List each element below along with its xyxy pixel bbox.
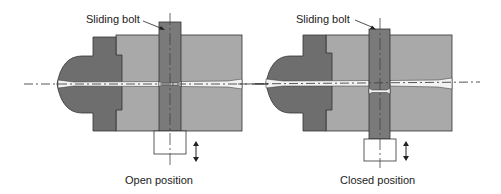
diagram-canvas [0, 0, 501, 194]
arrow-up-icon [403, 141, 409, 146]
sliding-bolt-label-open: Sliding bolt [86, 13, 140, 25]
open-position-diagram [24, 13, 250, 168]
callout-arrowhead-icon [370, 26, 376, 30]
sliding-bolt-label-closed: Sliding bolt [296, 13, 350, 25]
arrow-up-icon [193, 141, 199, 146]
sliding-bolt [369, 29, 390, 139]
arrow-down-icon [193, 157, 199, 162]
callout-leader [355, 20, 374, 28]
caption-open-position: Open position [125, 174, 193, 186]
arrow-down-icon [403, 156, 409, 161]
closed-position-diagram [238, 18, 480, 168]
caption-closed-position: Closed position [340, 174, 415, 186]
